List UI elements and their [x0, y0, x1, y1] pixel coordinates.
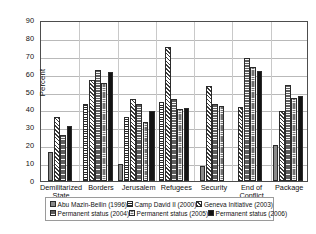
bar [95, 70, 101, 181]
legend-item-label: Geneva Initiative (2003) [204, 201, 273, 208]
y-axis-label: Percent [38, 38, 47, 128]
legend-item: Geneva Initiative (2003) [196, 201, 273, 208]
bar [171, 99, 177, 181]
y-axis-tick-label: 80 [0, 35, 34, 42]
bar [159, 102, 165, 181]
legend-item: Permanent status (2004) [50, 210, 129, 217]
bar [200, 166, 206, 181]
bar [273, 145, 279, 181]
bar [184, 108, 190, 181]
legend-swatch-icon [208, 210, 214, 216]
legend-item: Permanent status (2005) [129, 210, 208, 217]
legend-row: Permanent status (2004) Permanent status… [50, 210, 270, 217]
bar [124, 117, 130, 181]
bar [60, 135, 66, 182]
bar [257, 71, 263, 181]
bar [206, 86, 212, 181]
bar [130, 99, 136, 181]
y-axis-tick-label: 40 [0, 106, 34, 113]
bar-group [193, 22, 231, 181]
legend-item: Abu Mazin-Beilin (1996) [50, 201, 127, 208]
bar [136, 104, 142, 181]
bar [238, 107, 244, 181]
chart-figure: 0102030405060708090 Percent Demilitarize… [0, 0, 316, 234]
legend-swatch-icon [196, 201, 202, 207]
bar [67, 126, 73, 181]
bar-group [269, 22, 307, 181]
y-axis-tick-label: 50 [0, 89, 34, 96]
legend-item: Camp David II (2000) [127, 201, 196, 208]
bar [89, 80, 95, 181]
bar [149, 111, 155, 181]
legend-item-label: Abu Mazin-Beilin (1996) [58, 201, 127, 208]
y-axis-tick-label: 60 [0, 71, 34, 78]
chart-legend: Abu Mazin-Beilin (1996) Camp David II (2… [45, 197, 274, 221]
bar [108, 72, 114, 181]
legend-row: Abu Mazin-Beilin (1996) Camp David II (2… [50, 201, 270, 208]
legend-item-label: Permanent status (2005) [137, 210, 209, 217]
y-axis-tick-label: 30 [0, 124, 34, 131]
y-axis-tick-label: 90 [0, 17, 34, 24]
bar-group [231, 22, 269, 181]
legend-swatch-icon [129, 210, 135, 216]
bar [48, 152, 54, 181]
legend-swatch-icon [50, 210, 56, 216]
bar [165, 47, 171, 181]
bar [212, 104, 218, 181]
bar-group [79, 22, 117, 181]
bar-group [117, 22, 155, 181]
bar [177, 109, 183, 181]
plot-area [40, 21, 308, 182]
legend-item-label: Permanent status (2006) [216, 210, 288, 217]
bar [83, 104, 89, 181]
legend-swatch-icon [50, 201, 56, 207]
legend-swatch-icon [127, 201, 133, 207]
legend-item-label: Permanent status (2004) [58, 210, 130, 217]
bar-group [155, 22, 193, 181]
bar [54, 117, 60, 181]
bar [279, 111, 285, 181]
y-axis-tick-label: 0 [0, 178, 34, 185]
bar [219, 106, 225, 181]
legend-item: Permanent status (2006) [208, 210, 287, 217]
bar [143, 122, 149, 181]
bar-groups [41, 22, 307, 181]
y-axis-tick-label: 20 [0, 142, 34, 149]
bar [244, 58, 250, 181]
bar [250, 67, 256, 181]
bar [285, 85, 291, 181]
x-axis-category-label: Package [270, 184, 308, 201]
bar [101, 83, 107, 181]
y-axis-tick-label: 10 [0, 160, 34, 167]
bar [291, 98, 297, 181]
legend-item-label: Camp David II (2000) [135, 201, 197, 208]
y-axis-tick-label: 70 [0, 53, 34, 60]
bar [118, 164, 124, 181]
bar-group [41, 22, 79, 181]
bar [298, 96, 304, 181]
